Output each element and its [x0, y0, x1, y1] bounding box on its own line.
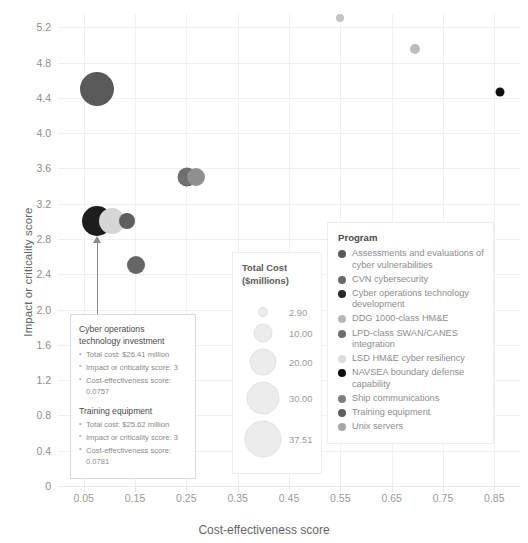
data-point-bubble[interactable] — [119, 213, 135, 229]
color-legend-item-label: Unix servers — [352, 421, 403, 433]
legend-swatch-circle-icon — [338, 250, 346, 258]
list-item: Cost-effectiveness score: 0.0781 — [79, 445, 187, 469]
annotation-group2-title: Training equipment — [79, 405, 187, 417]
legend-swatch-circle-icon — [338, 330, 346, 338]
gridline-vertical — [494, 14, 495, 486]
data-point-bubble[interactable] — [410, 44, 420, 54]
data-point-bubble[interactable] — [187, 168, 205, 186]
legend-swatch-circle-icon — [338, 409, 346, 417]
size-legend-bubble — [250, 348, 277, 375]
color-legend-item[interactable]: Cyber operations technology development — [338, 288, 485, 311]
legend-swatch-circle-icon — [338, 395, 346, 403]
x-axis-tick-label: 0.35 — [227, 492, 247, 504]
annotation-group2-bullets: Total cost: $25.62 million Impact or cri… — [79, 419, 187, 468]
y-axis-tick-label: 2.0 — [36, 304, 51, 316]
y-axis-tick-label: 3.2 — [36, 198, 51, 210]
size-legend-bubble — [254, 323, 273, 342]
y-axis-tick-label: 2.8 — [36, 233, 51, 245]
legend-swatch-circle-icon — [338, 290, 346, 298]
x-axis-tick-label: 0.05 — [73, 492, 93, 504]
list-item: Total cost: $25.62 million — [79, 419, 187, 431]
size-legend-title-line1: Total Cost — [242, 262, 289, 275]
y-axis-tick-label: 0 — [45, 480, 51, 492]
size-legend-title: Total Cost ($millions) — [242, 262, 289, 287]
color-legend-item[interactable]: Ship communications — [338, 393, 485, 405]
x-axis-tick-label: 0.45 — [279, 492, 299, 504]
color-legend-item[interactable]: Training equipment — [338, 407, 485, 419]
legend-swatch-circle-icon — [338, 315, 346, 323]
data-point-bubble[interactable] — [336, 14, 344, 22]
y-axis-tick-label: 4.0 — [36, 127, 51, 139]
y-axis-tick-label: 2.4 — [36, 268, 51, 280]
x-axis-tick-label: 0.15 — [125, 492, 145, 504]
color-legend-item[interactable]: LSD HM&E cyber resiliency — [338, 353, 485, 365]
color-legend-item[interactable]: Unix servers — [338, 421, 485, 433]
size-legend-label: 30.00 — [289, 392, 312, 403]
color-legend-item[interactable]: NAVSEA boundary defense capability — [338, 367, 485, 390]
y-axis-tick-label: 1.6 — [36, 339, 51, 351]
color-legend-items: Assessments and evaluations of cyber vul… — [338, 248, 485, 433]
data-point-bubble[interactable] — [80, 72, 114, 106]
color-legend-item[interactable]: CVN cybersecurity — [338, 274, 485, 286]
legend-swatch-circle-icon — [338, 355, 346, 363]
annotation-arrow-line — [97, 242, 98, 314]
x-axis-tick-label: 0.25 — [176, 492, 196, 504]
x-axis-tick-label: 0.55 — [330, 492, 350, 504]
x-axis-tick-label: 0.65 — [381, 492, 401, 504]
color-legend-title: Program — [338, 232, 485, 243]
color-legend-item-label: CVN cybersecurity — [352, 274, 428, 286]
color-legend-item-label: Assessments and evaluations of cyber vul… — [352, 248, 485, 271]
x-axis-tick-label: 0.85 — [484, 492, 504, 504]
color-legend-item-label: Ship communications — [352, 393, 439, 405]
data-point-bubble[interactable] — [496, 87, 505, 96]
size-legend-label: 10.00 — [289, 327, 312, 338]
color-legend: Program Assessments and evaluations of c… — [327, 222, 494, 444]
color-legend-item[interactable]: Assessments and evaluations of cyber vul… — [338, 248, 485, 271]
annotation-group1-title: Cyber operations technology investment — [79, 323, 187, 347]
list-item: Total cost: $26.41 million — [79, 349, 187, 361]
size-legend-bubble — [247, 381, 280, 414]
legend-swatch-circle-icon — [338, 276, 346, 284]
y-axis-tick-label: 5.2 — [36, 21, 51, 33]
color-legend-item[interactable]: LPD-class SWAN/CANES integration — [338, 328, 485, 351]
color-legend-item-label: Training equipment — [352, 407, 430, 419]
y-axis-tick-label: 3.6 — [36, 162, 51, 174]
color-legend-item-label: Cyber operations technology development — [352, 288, 485, 311]
data-point-bubble[interactable] — [127, 256, 145, 274]
x-axis-tick-label: 0.75 — [433, 492, 453, 504]
size-legend-bubble — [245, 420, 282, 457]
list-item: Impact or criticality score: 3 — [79, 432, 187, 444]
legend-swatch-circle-icon — [338, 423, 346, 431]
scatter-chart: Impact or criticality score 00.40.81.21.… — [0, 0, 528, 543]
annotation-callout: Cyber operations technology investment T… — [70, 314, 196, 479]
y-axis-tick-label: 0.8 — [36, 409, 51, 421]
size-legend-label: 2.90 — [289, 307, 307, 318]
y-axis-tick-label: 1.2 — [36, 374, 51, 386]
x-axis-title: Cost-effectiveness score — [0, 523, 528, 537]
size-legend-bubble — [258, 307, 268, 317]
y-axis-title: Impact or criticality score — [22, 152, 34, 392]
y-axis-tick-label: 4.8 — [36, 57, 51, 69]
color-legend-item[interactable]: DDG 1000-class HM&E — [338, 313, 485, 325]
list-item: Impact or criticality score: 3 — [79, 362, 187, 374]
color-legend-item-label: DDG 1000-class HM&E — [352, 313, 449, 325]
size-legend: Total Cost ($millions) 2.9010.0020.0030.… — [232, 252, 322, 474]
size-legend-title-line2: ($millions) — [242, 275, 289, 288]
y-axis-tick-label: 4.4 — [36, 92, 51, 104]
color-legend-item-label: NAVSEA boundary defense capability — [352, 367, 485, 390]
annotation-arrow-head — [93, 236, 101, 243]
size-legend-label: 37.51 — [289, 433, 312, 444]
y-axis-tick-label: 0.4 — [36, 445, 51, 457]
legend-swatch-circle-icon — [338, 369, 346, 377]
list-item: Cost-effectiveness score: 0.0757 — [79, 375, 187, 399]
annotation-group1-bullets: Total cost: $26.41 million Impact or cri… — [79, 349, 187, 398]
color-legend-item-label: LSD HM&E cyber resiliency — [352, 353, 465, 365]
size-legend-label: 20.00 — [289, 356, 312, 367]
color-legend-item-label: LPD-class SWAN/CANES integration — [352, 328, 485, 351]
